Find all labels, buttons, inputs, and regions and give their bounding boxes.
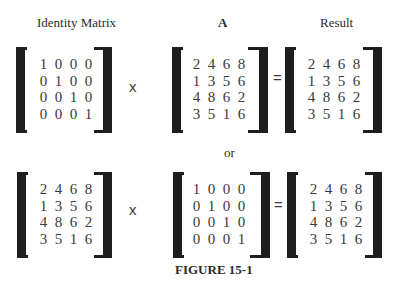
row1-matrix-a: 2468135648623516: [172, 47, 268, 133]
matrix-grid: 2468135648623516: [306, 181, 366, 247]
matrix-cell: 4: [204, 56, 219, 73]
matrix-cell: 0: [66, 56, 81, 73]
matrix-cell: 3: [306, 231, 321, 248]
matrix-cell: 5: [51, 231, 66, 248]
matrix-grid: 1000010000100001: [189, 181, 249, 247]
matrix-cell: 0: [36, 73, 51, 90]
or-label: or: [224, 146, 235, 159]
left-bracket: [287, 172, 298, 258]
matrix-cell: 1: [334, 106, 349, 123]
matrix-cell: 4: [319, 56, 334, 73]
matrix-cell: 1: [66, 231, 81, 248]
left-bracket: [172, 47, 183, 133]
matrix-cell: 1: [336, 231, 351, 248]
matrix-cell: 2: [351, 214, 366, 231]
multiply-operator: x: [129, 79, 137, 94]
matrix-cell: 3: [36, 231, 51, 248]
row2-matrix-a: 2468135648623516: [17, 172, 112, 258]
matrix-cell: 6: [334, 89, 349, 106]
matrix-cell: 0: [36, 89, 51, 106]
matrix-cell: 0: [204, 214, 219, 231]
multiply-operator: x: [129, 202, 137, 217]
matrix-cell: 0: [189, 231, 204, 248]
row1-identity-matrix: 1000010000100001: [16, 47, 112, 133]
matrix-cell: 5: [319, 106, 334, 123]
matrix-cell: 0: [36, 106, 51, 123]
matrix-cell: 6: [351, 198, 366, 215]
matrix-cell: 6: [219, 89, 234, 106]
matrix-grid: 2468135648623516: [304, 56, 364, 122]
matrix-cell: 0: [189, 198, 204, 215]
matrix-cell: 1: [51, 73, 66, 90]
matrix-cell: 0: [66, 73, 81, 90]
right-bracket: [94, 47, 112, 133]
matrix-cell: 1: [219, 214, 234, 231]
matrix-cell: 0: [234, 181, 249, 198]
matrix-cell: 1: [204, 198, 219, 215]
left-bracket: [173, 172, 184, 258]
matrix-cell: 4: [306, 214, 321, 231]
matrix-cell: 3: [204, 73, 219, 90]
identity-matrix-label: Identity Matrix: [37, 16, 116, 29]
matrix-cell: 0: [219, 181, 234, 198]
matrix-cell: 2: [234, 89, 249, 106]
matrix-cell: 8: [349, 56, 364, 73]
matrix-cell: 8: [321, 214, 336, 231]
matrix-cell: 0: [234, 198, 249, 215]
matrix-cell: 0: [234, 214, 249, 231]
matrix-grid: 2468135648623516: [36, 181, 96, 247]
matrix-cell: 8: [234, 56, 249, 73]
matrix-cell: 1: [304, 73, 319, 90]
matrix-cell: 0: [51, 56, 66, 73]
row1-result-matrix: 2468135648623516: [285, 47, 382, 133]
matrix-cell: 5: [336, 198, 351, 215]
matrix-cell: 8: [351, 181, 366, 198]
matrix-cell: 0: [51, 89, 66, 106]
matrix-cell: 1: [189, 181, 204, 198]
matrix-cell: 2: [189, 56, 204, 73]
row2-identity-matrix: 1000010000100001: [173, 172, 270, 258]
row2-result-matrix: 2468135648623516: [287, 172, 382, 258]
matrix-a-label: A: [218, 16, 227, 29]
matrix-cell: 6: [66, 214, 81, 231]
matrix-cell: 1: [306, 198, 321, 215]
matrix-cell: 4: [51, 181, 66, 198]
matrix-cell: 5: [66, 198, 81, 215]
figure-caption: FIGURE 15-1: [175, 262, 253, 278]
matrix-cell: 1: [66, 89, 81, 106]
matrix-cell: 1: [189, 73, 204, 90]
matrix-cell: 2: [36, 181, 51, 198]
right-bracket: [250, 172, 270, 258]
right-bracket: [363, 47, 382, 133]
matrix-cell: 3: [51, 198, 66, 215]
matrix-cell: 0: [204, 181, 219, 198]
right-bracket: [365, 172, 382, 258]
matrix-cell: 0: [219, 198, 234, 215]
matrix-cell: 0: [51, 106, 66, 123]
matrix-cell: 6: [334, 56, 349, 73]
matrix-cell: 1: [219, 106, 234, 123]
left-bracket: [16, 47, 27, 133]
matrix-cell: 6: [349, 73, 364, 90]
matrix-cell: 2: [349, 89, 364, 106]
matrix-grid: 1000010000100001: [36, 56, 96, 122]
matrix-cell: 6: [66, 181, 81, 198]
matrix-cell: 6: [234, 73, 249, 90]
matrix-cell: 3: [319, 73, 334, 90]
left-bracket: [285, 47, 296, 133]
matrix-cell: 6: [234, 106, 249, 123]
matrix-cell: 1: [36, 56, 51, 73]
matrix-cell: 3: [321, 198, 336, 215]
matrix-cell: 4: [321, 181, 336, 198]
matrix-cell: 5: [334, 73, 349, 90]
matrix-cell: 8: [319, 89, 334, 106]
matrix-cell: 6: [349, 106, 364, 123]
matrix-cell: 5: [219, 73, 234, 90]
matrix-cell: 2: [306, 181, 321, 198]
matrix-cell: 5: [204, 106, 219, 123]
matrix-cell: 6: [336, 214, 351, 231]
matrix-cell: 0: [204, 231, 219, 248]
matrix-cell: 6: [351, 231, 366, 248]
matrix-cell: 4: [189, 89, 204, 106]
matrix-cell: 3: [304, 106, 319, 123]
